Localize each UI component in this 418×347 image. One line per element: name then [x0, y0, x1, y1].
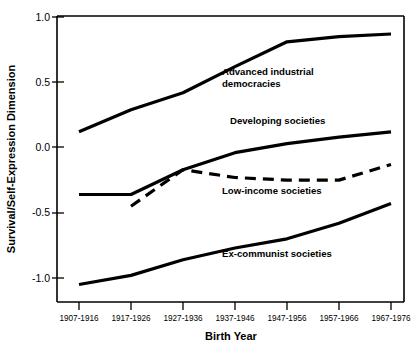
chart-background — [0, 0, 418, 347]
series-label-advanced-line1: Advanced industrial — [222, 66, 314, 77]
y-tick-label-2: 0.5 — [35, 76, 50, 88]
x-tick-label-2: 1917-1926 — [111, 314, 151, 323]
series-label-ex-communist: Ex-communist societies — [222, 248, 332, 259]
y-tick-label-3: 0.0 — [35, 141, 50, 153]
x-axis-title: Birth Year — [205, 330, 257, 342]
x-tick-label-6: 1957-1966 — [319, 314, 359, 323]
line-chart: Survival/Self-Expression Dimension 1.0 0… — [0, 0, 418, 347]
series-label-low-income: Low-income societies — [222, 185, 322, 196]
series-label-advanced-line2: democracies — [222, 78, 281, 89]
y-tick-label-5: -1.0 — [32, 272, 50, 284]
chart-figure: Survival/Self-Expression Dimension 1.0 0… — [0, 0, 418, 347]
x-tick-label-5: 1947-1956 — [267, 314, 307, 323]
series-label-developing: Developing societies — [230, 115, 325, 126]
y-axis-title: Survival/Self-Expression Dimension — [5, 65, 17, 254]
x-tick-label-1: 1907-1916 — [59, 314, 99, 323]
y-tick-label-4: -0.5 — [32, 206, 50, 218]
x-tick-label-4: 1937-1946 — [215, 314, 255, 323]
x-tick-label-3: 1927-1936 — [163, 314, 203, 323]
x-tick-label-7: 1967-1976 — [371, 314, 411, 323]
y-tick-label-1: 1.0 — [35, 11, 50, 23]
